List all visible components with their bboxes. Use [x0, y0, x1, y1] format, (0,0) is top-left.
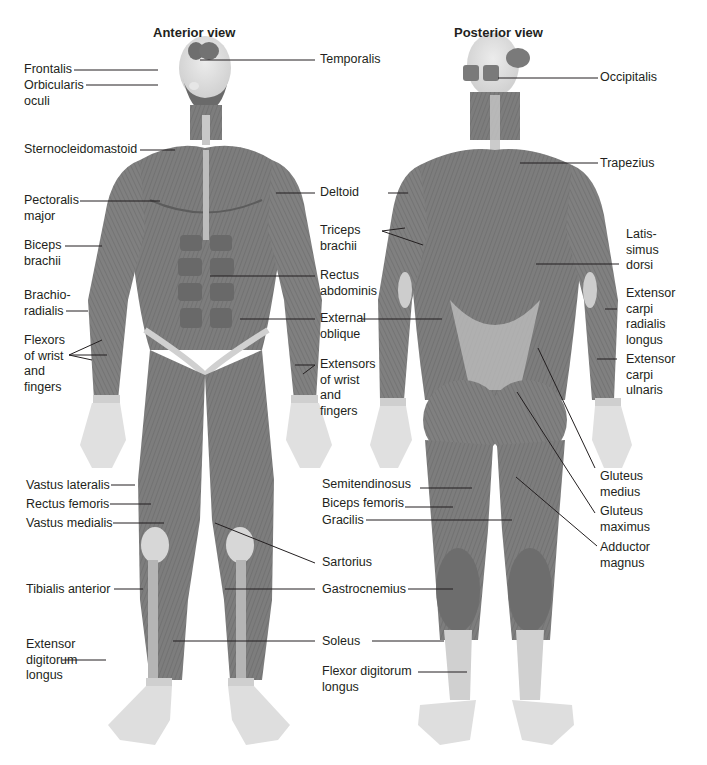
anterior-view-title: Anterior view	[153, 25, 235, 40]
label-gluteus-medius: Gluteus medius	[600, 469, 643, 500]
label-deltoid: Deltoid	[320, 185, 359, 201]
label-extensors-wrist-fingers: Extensors of wrist and fingers	[320, 357, 376, 419]
label-brachioradialis: Brachio- radialis	[24, 288, 71, 319]
posterior-view-title: Posterior view	[454, 25, 543, 40]
label-external-oblique: External oblique	[320, 311, 366, 342]
label-vastus-medialis: Vastus medialis	[26, 516, 113, 532]
label-occipitalis: Occipitalis	[600, 70, 657, 86]
label-orbicularis-oculi: Orbicularis oculi	[24, 78, 84, 109]
label-extensor-digitorum-longus: Extensor digitorum longus	[26, 637, 77, 684]
label-rectus-femoris: Rectus femoris	[26, 497, 109, 513]
label-rectus-abdominis: Rectus abdominis	[320, 268, 377, 299]
label-pectoralis-major: Pectoralis major	[24, 193, 79, 224]
label-gluteus-maximus: Gluteus maximus	[600, 504, 650, 535]
label-soleus: Soleus	[322, 634, 360, 650]
label-flexor-digitorum-longus: Flexor digitorum longus	[322, 664, 412, 695]
label-sternocleidomastoid: Sternocleidomastoid	[24, 142, 137, 158]
label-temporalis: Temporalis	[320, 52, 380, 68]
label-semitendinosus: Semitendinosus	[322, 477, 411, 493]
label-latissimus-dorsi: Latis- simus dorsi	[626, 227, 659, 274]
label-tibialis-anterior: Tibialis anterior	[26, 582, 110, 598]
label-extensor-carpi-radialis-longus: Extensor carpi radialis longus	[626, 286, 675, 348]
label-vastus-lateralis: Vastus lateralis	[26, 478, 110, 494]
posterior-figure	[370, 33, 632, 745]
label-adductor-magnus: Adductor magnus	[600, 540, 650, 571]
label-frontalis: Frontalis	[24, 62, 72, 78]
label-biceps-femoris: Biceps femoris	[322, 496, 404, 512]
label-sartorius: Sartorius	[322, 555, 372, 571]
label-extensor-carpi-ulnaris: Extensor carpi ulnaris	[626, 352, 675, 399]
label-gracilis: Gracilis	[322, 513, 364, 529]
label-gastrocnemius: Gastrocnemius	[322, 582, 406, 598]
label-trapezius: Trapezius	[600, 156, 654, 172]
label-flexors-wrist-fingers: Flexors of wrist and fingers	[24, 333, 65, 395]
label-biceps-brachii: Biceps brachii	[24, 238, 62, 269]
label-triceps-brachii: Triceps brachii	[320, 223, 361, 254]
